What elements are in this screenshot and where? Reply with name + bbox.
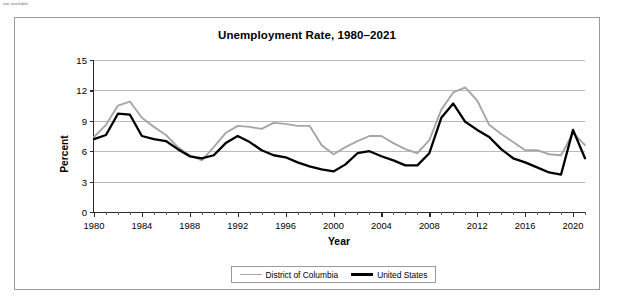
series-line-united-states [94, 104, 585, 175]
y-tick-label: 9 [82, 115, 87, 126]
y-tick-label: 3 [82, 176, 87, 187]
figure-footnote: not available. [3, 1, 29, 6]
legend-swatch-district-of-columbia [240, 274, 262, 276]
legend-item-district-of-columbia: District of Columbia [240, 270, 339, 280]
x-tick-label: 1980 [84, 220, 105, 231]
chart-title: Unemployment Rate, 1980–2021 [15, 29, 599, 41]
x-tick-label: 2016 [515, 220, 536, 231]
series-line-district-of-columbia [94, 87, 585, 160]
x-tick-label: 2008 [419, 220, 440, 231]
x-tick-label: 2000 [323, 220, 344, 231]
series-layer [94, 60, 585, 214]
x-tick-label: 2020 [563, 220, 584, 231]
legend-swatch-united-states [351, 273, 373, 276]
plot-area: 03691215 1980198419881992199620002004200… [93, 60, 585, 213]
y-tick-label: 12 [76, 85, 87, 96]
x-tick-label: 1992 [227, 220, 248, 231]
chart-legend: District of Columbia United States [231, 266, 436, 283]
y-tick-label: 6 [82, 146, 87, 157]
x-tick-minor [585, 212, 586, 215]
legend-label-united-states: United States [377, 270, 427, 280]
y-axis-label: Percent [59, 135, 70, 172]
x-tick-label: 2004 [371, 220, 392, 231]
x-tick-label: 1996 [275, 220, 296, 231]
y-tick-label: 0 [82, 207, 87, 218]
y-tick-label: 15 [76, 55, 87, 66]
x-tick-label: 1988 [179, 220, 200, 231]
legend-item-united-states: United States [351, 270, 427, 280]
x-axis-label: Year [93, 236, 585, 247]
figure-frame: Unemployment Rate, 1980–2021 Percent 036… [14, 17, 600, 290]
x-tick-label: 1984 [131, 220, 152, 231]
x-tick-label: 2012 [467, 220, 488, 231]
legend-label-district-of-columbia: District of Columbia [266, 270, 339, 280]
